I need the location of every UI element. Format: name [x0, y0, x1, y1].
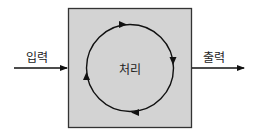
process-label: 처리: [119, 63, 141, 77]
output-label: 출력: [203, 51, 225, 65]
input-label: 입력: [26, 51, 48, 65]
